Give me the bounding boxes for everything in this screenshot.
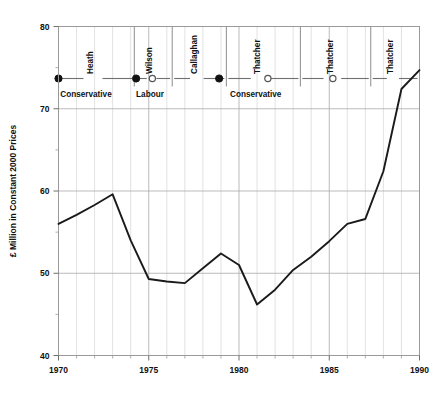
term-marker-open bbox=[265, 75, 271, 81]
pm-term-label: Heath bbox=[86, 51, 95, 74]
y-tick-label: 70 bbox=[40, 104, 50, 114]
term-marker-filled bbox=[133, 75, 140, 82]
x-tick-label: 1990 bbox=[410, 365, 429, 375]
line-chart: HeathWilsonCallaghanThatcherThatcherThat… bbox=[0, 0, 444, 393]
pm-term-label: Thatcher bbox=[253, 39, 262, 74]
y-tick-label: 60 bbox=[40, 186, 50, 196]
pm-term-annotations: HeathWilsonCallaghanThatcherThatcherThat… bbox=[55, 27, 418, 99]
party-label: Conservative bbox=[230, 90, 282, 99]
y-axis-tick-labels: 4050607080 bbox=[40, 22, 50, 361]
party-label: Conservative bbox=[60, 90, 112, 99]
axis-ticks bbox=[54, 27, 420, 361]
y-axis-title: £ Million in Constant 2000 Prices bbox=[8, 125, 18, 258]
party-label: Labour bbox=[136, 90, 165, 99]
x-tick-label: 1980 bbox=[230, 365, 249, 375]
y-tick-label: 40 bbox=[40, 351, 50, 361]
x-axis-tick-labels: 19701975198019851990 bbox=[49, 365, 429, 375]
term-marker-open bbox=[330, 75, 336, 81]
x-tick-label: 1970 bbox=[49, 365, 68, 375]
y-tick-label: 50 bbox=[40, 268, 50, 278]
pm-term-label: Thatcher bbox=[326, 39, 335, 74]
pm-term-label: Thatcher bbox=[386, 39, 395, 74]
term-marker-filled bbox=[216, 75, 223, 82]
chart-container: HeathWilsonCallaghanThatcherThatcherThat… bbox=[0, 0, 444, 393]
x-tick-label: 1975 bbox=[139, 365, 158, 375]
pm-term-label: Callaghan bbox=[190, 35, 199, 74]
y-tick-label: 80 bbox=[40, 22, 50, 32]
pm-term-label: Wilson bbox=[145, 47, 154, 74]
x-tick-label: 1985 bbox=[320, 365, 339, 375]
term-marker-open bbox=[149, 75, 155, 81]
